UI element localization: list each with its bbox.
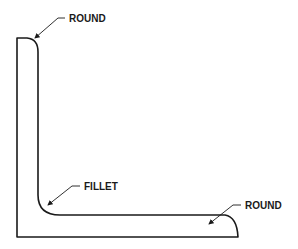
angle-profile-outline	[17, 38, 238, 237]
leader-fillet	[48, 186, 80, 205]
label-round-top: ROUND	[69, 13, 106, 24]
leader-round-top	[35, 18, 65, 38]
label-fillet: FILLET	[84, 181, 118, 192]
angle-diagram: ROUND FILLET ROUND	[0, 0, 298, 249]
label-round-right: ROUND	[245, 200, 282, 211]
